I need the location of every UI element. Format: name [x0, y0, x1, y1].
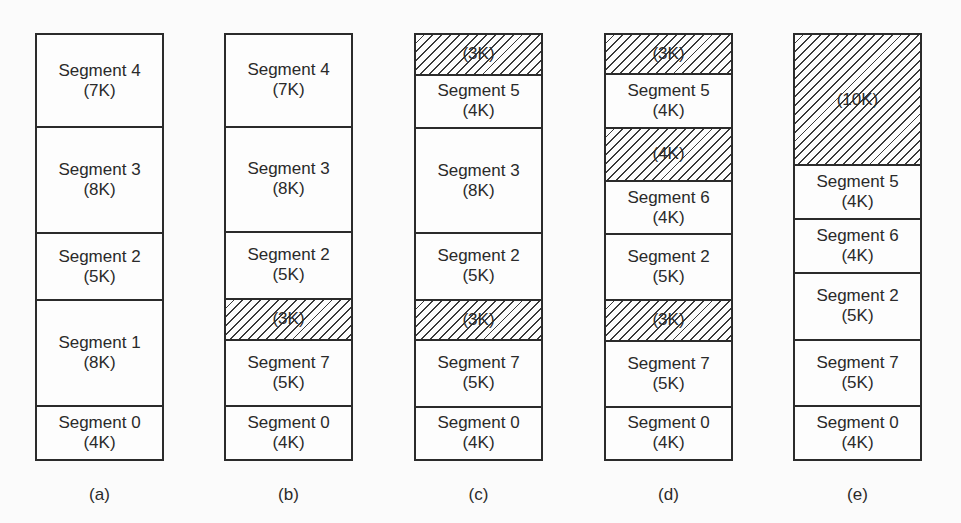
- segment-size: (8K): [272, 179, 304, 199]
- segment-size: (5K): [83, 267, 115, 287]
- free-hole-block: (3K): [606, 301, 731, 341]
- caption-c: (c): [414, 485, 543, 505]
- memory-segment-block: Segment 3(8K): [226, 128, 351, 234]
- segment-name: Segment 1: [58, 333, 140, 353]
- segment-name: Segment 4: [58, 61, 140, 81]
- segment-size: (4K): [462, 433, 494, 453]
- memory-segment-block: Segment 2(5K): [226, 233, 351, 300]
- memory-segment-block: Segment 0(4K): [795, 407, 920, 459]
- segment-name: Segment 2: [247, 245, 329, 265]
- segment-size: (4K): [841, 192, 873, 212]
- segment-size: (5K): [841, 306, 873, 326]
- memory-segment-block: Segment 4(7K): [226, 35, 351, 128]
- segment-size: (7K): [83, 81, 115, 101]
- memory-segment-block: Segment 2(5K): [416, 234, 541, 300]
- segment-size: (4K): [652, 208, 684, 228]
- segment-size: (10K): [837, 90, 879, 110]
- memory-column-d: (3K)Segment 5(4K)(4K)Segment 6(4K)Segmen…: [604, 33, 733, 461]
- segment-name: Segment 7: [816, 353, 898, 373]
- segment-name: Segment 0: [437, 413, 519, 433]
- caption-e: (e): [793, 485, 922, 505]
- segment-size: (7K): [272, 80, 304, 100]
- memory-segment-block: Segment 7(5K): [795, 341, 920, 408]
- segment-name: Segment 5: [437, 81, 519, 101]
- segment-size: (5K): [272, 373, 304, 393]
- segment-size: (4K): [83, 433, 115, 453]
- memory-segment-block: Segment 6(4K): [606, 182, 731, 235]
- segment-size: (8K): [83, 353, 115, 373]
- segment-size: (4K): [652, 101, 684, 121]
- segment-name: Segment 7: [627, 354, 709, 374]
- segment-size: (8K): [83, 180, 115, 200]
- segment-name: Segment 0: [627, 413, 709, 433]
- segment-size: (5K): [841, 373, 873, 393]
- segment-name: Segment 3: [58, 160, 140, 180]
- segment-size: (4K): [652, 433, 684, 453]
- memory-segment-block: Segment 0(4K): [416, 408, 541, 460]
- memory-segment-block: Segment 0(4K): [226, 407, 351, 459]
- segment-size: (5K): [652, 267, 684, 287]
- memory-column-b: Segment 4(7K)Segment 3(8K)Segment 2(5K)(…: [224, 33, 353, 461]
- memory-segment-block: Segment 0(4K): [606, 408, 731, 459]
- segment-name: Segment 0: [816, 413, 898, 433]
- caption-b: (b): [224, 485, 353, 505]
- memory-segment-block: Segment 6(4K): [795, 220, 920, 274]
- segment-name: Segment 3: [437, 161, 519, 181]
- segment-size: (3K): [462, 44, 494, 64]
- segment-name: Segment 7: [247, 353, 329, 373]
- memory-segment-block: Segment 3(8K): [37, 128, 162, 234]
- segment-size: (4K): [841, 433, 873, 453]
- memory-segment-block: Segment 7(5K): [416, 341, 541, 407]
- segment-name: Segment 2: [627, 247, 709, 267]
- memory-segment-block: Segment 2(5K): [795, 274, 920, 341]
- segment-name: Segment 2: [437, 246, 519, 266]
- free-hole-block: (3K): [416, 301, 541, 342]
- memory-segment-block: Segment 5(4K): [416, 76, 541, 130]
- segment-name: Segment 5: [627, 81, 709, 101]
- segment-size: (3K): [462, 310, 494, 330]
- segment-size: (5K): [462, 266, 494, 286]
- memory-segment-block: Segment 7(5K): [226, 341, 351, 408]
- segment-size: (5K): [652, 374, 684, 394]
- segment-size: (4K): [652, 144, 684, 164]
- memory-segment-block: Segment 0(4K): [37, 407, 162, 459]
- memory-segment-block: Segment 1(8K): [37, 301, 162, 407]
- segment-name: Segment 4: [247, 60, 329, 80]
- free-hole-block: (3K): [416, 35, 541, 76]
- segment-size: (4K): [841, 246, 873, 266]
- segment-size: (5K): [462, 373, 494, 393]
- segment-size: (5K): [272, 265, 304, 285]
- memory-segment-block: Segment 2(5K): [37, 234, 162, 301]
- memory-segment-block: Segment 4(7K): [37, 35, 162, 128]
- caption-a: (a): [35, 485, 164, 505]
- segment-size: (4K): [462, 101, 494, 121]
- memory-segment-block: Segment 2(5K): [606, 235, 731, 301]
- segment-size: (3K): [652, 310, 684, 330]
- caption-d: (d): [604, 485, 733, 505]
- segment-name: Segment 3: [247, 159, 329, 179]
- segment-name: Segment 6: [627, 188, 709, 208]
- segment-name: Segment 5: [816, 172, 898, 192]
- memory-segment-block: Segment 5(4K): [606, 75, 731, 128]
- memory-segment-block: Segment 3(8K): [416, 129, 541, 234]
- segment-size: (3K): [652, 44, 684, 64]
- segment-size: (4K): [272, 433, 304, 453]
- segment-name: Segment 7: [437, 353, 519, 373]
- memory-column-a: Segment 4(7K)Segment 3(8K)Segment 2(5K)S…: [35, 33, 164, 461]
- segment-name: Segment 2: [58, 247, 140, 267]
- free-hole-block: (4K): [606, 129, 731, 182]
- memory-column-c: (3K)Segment 5(4K)Segment 3(8K)Segment 2(…: [414, 33, 543, 461]
- memory-segment-block: Segment 7(5K): [606, 342, 731, 408]
- segment-size: (3K): [272, 309, 304, 329]
- segment-name: Segment 6: [816, 226, 898, 246]
- free-hole-block: (3K): [226, 300, 351, 341]
- segment-name: Segment 0: [247, 413, 329, 433]
- memory-column-e: (10K)Segment 5(4K)Segment 6(4K)Segment 2…: [793, 33, 922, 461]
- segment-name: Segment 0: [58, 413, 140, 433]
- segment-name: Segment 2: [816, 286, 898, 306]
- free-hole-block: (3K): [606, 35, 731, 75]
- memory-segment-block: Segment 5(4K): [795, 166, 920, 220]
- segment-size: (8K): [462, 181, 494, 201]
- free-hole-block: (10K): [795, 35, 920, 166]
